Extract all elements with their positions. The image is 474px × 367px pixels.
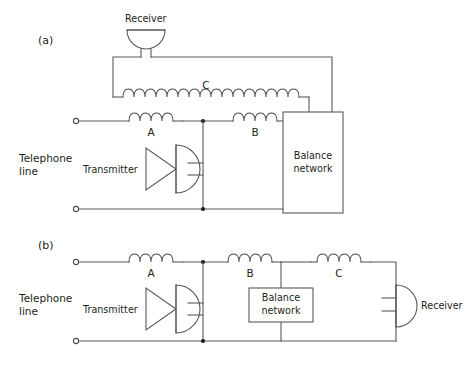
transmitter-triangle-icon-a — [146, 148, 176, 190]
receiver-label-b: Receiver — [421, 300, 463, 311]
terminal-bottom-b — [73, 338, 78, 343]
coil-b-b — [228, 254, 281, 262]
telephone-line-label-line2-a: line — [19, 165, 38, 177]
receiver-label-a: Receiver — [125, 13, 167, 24]
panel-a-label: (a) — [38, 34, 53, 47]
coil-c-b — [311, 254, 371, 262]
coil-b-a — [233, 113, 283, 121]
transmitter-triangle-icon-b — [146, 288, 176, 330]
transmitter-dome-icon-b — [176, 285, 200, 333]
transmitter-symbol-b — [146, 285, 203, 333]
coil-b-label-b: B — [246, 267, 253, 279]
junction-dot-bottom-a — [201, 207, 205, 211]
panel-b-label: (b) — [38, 239, 54, 252]
coil-a-winding-a — [129, 113, 173, 121]
balance-network-label-line2-b: network — [262, 305, 301, 316]
coil-a-b — [129, 254, 183, 262]
transmitter-label-b: Transmitter — [82, 304, 138, 315]
balance-network-label-line2-a: network — [294, 163, 333, 174]
circuit-diagram-canvas: (a) Receiver C — [0, 0, 474, 367]
terminal-bottom-a — [73, 206, 78, 211]
receiver-symbol-a — [127, 30, 165, 57]
coil-b-winding-b — [228, 254, 272, 262]
coil-a-label-b: A — [147, 267, 155, 279]
coil-b-winding-a — [233, 113, 277, 121]
transmitter-dome-icon-a — [176, 145, 200, 193]
transmitter-label-a: Transmitter — [82, 164, 138, 175]
balance-network-label-line1-b: Balance — [262, 292, 300, 303]
coil-c-winding-a — [123, 89, 299, 97]
coil-c-label-a: C — [202, 79, 209, 91]
terminal-top-b — [73, 259, 78, 264]
receiver-dome-icon-a — [127, 30, 165, 49]
junction-dot-bottom-b — [201, 339, 205, 343]
coil-b-label-a: B — [251, 126, 258, 138]
panel-b: (b) A B Balance — [18, 239, 463, 344]
receiver-dome-icon-b — [396, 285, 417, 327]
coil-c-a — [113, 89, 309, 97]
telephone-line-label-line1-a: Telephone — [18, 152, 72, 164]
coil-c-label-b: C — [335, 267, 342, 279]
receiver-right-to-balance-wire-a — [151, 57, 332, 112]
transmitter-symbol-a — [146, 145, 203, 193]
coil-a-a — [129, 113, 183, 121]
receiver-branch-wire-b — [371, 262, 396, 341]
telephone-line-label-line2-b: line — [19, 305, 38, 317]
coil-c-winding-b — [317, 254, 361, 262]
telephone-line-label-line1-b: Telephone — [18, 292, 72, 304]
coil-a-winding-b — [129, 254, 173, 262]
receiver-left-return-wire-a — [113, 57, 141, 97]
terminal-top-a — [73, 118, 78, 123]
receiver-symbol-b — [382, 285, 417, 327]
panel-a: (a) Receiver C — [18, 13, 343, 213]
figure-root: (a) Receiver C — [0, 0, 474, 367]
coil-a-label-a: A — [147, 126, 155, 138]
balance-network-label-line1-a: Balance — [294, 150, 332, 161]
